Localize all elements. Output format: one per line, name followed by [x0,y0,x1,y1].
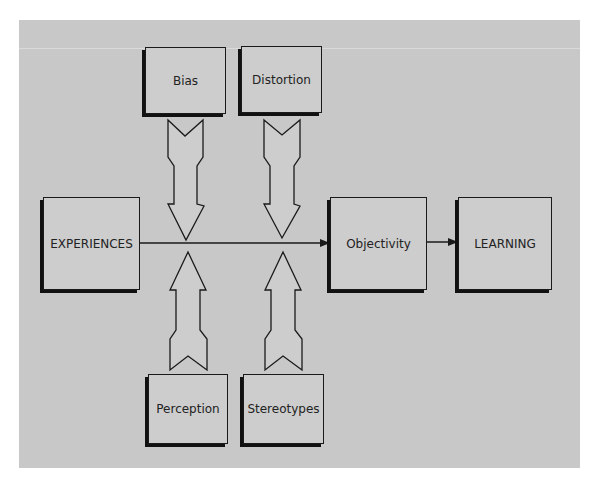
node-experiences: EXPERIENCES [43,197,140,290]
node-label: Bias [173,74,198,88]
node-label: Stereotypes [247,402,319,416]
node-objectivity: Objectivity [330,197,427,290]
node-distortion: Distortion [241,46,322,113]
node-label: Perception [156,402,219,416]
node-learning: LEARNING [458,197,552,290]
arrowhead-icon [320,239,330,247]
node-stereotypes: Stereotypes [243,374,324,444]
down-arrow-icon [168,120,204,240]
node-label: Objectivity [346,237,411,251]
node-perception: Perception [148,374,228,444]
node-label: EXPERIENCES [50,237,133,251]
node-bias: Bias [145,47,226,114]
down-arrow-icon [264,120,300,238]
up-arrow-icon [265,252,302,370]
up-arrow-icon [170,252,207,370]
arrowhead-icon [448,238,458,246]
node-label: Distortion [252,73,311,87]
node-label: LEARNING [474,237,536,251]
